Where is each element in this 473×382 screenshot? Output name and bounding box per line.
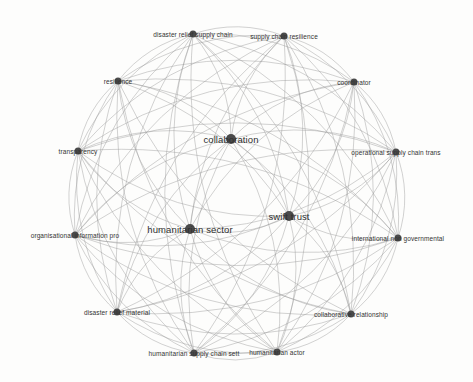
network-edge xyxy=(190,229,277,352)
network-edge xyxy=(75,235,277,352)
network-edge xyxy=(118,35,284,81)
node-label-res: resilience xyxy=(104,78,132,85)
node-label-trans: transparency xyxy=(59,148,98,155)
network-edge xyxy=(75,235,194,353)
network-edge xyxy=(284,36,354,82)
node-label-hsector: humanitarian sector xyxy=(147,224,232,235)
network-edge xyxy=(277,216,296,352)
node-label-hactor: humanitarian actor xyxy=(249,349,305,356)
network-edge xyxy=(118,81,231,139)
node-label-orginfo: organisational information pro xyxy=(31,232,120,239)
node-label-drm: disaster relief material xyxy=(84,309,150,316)
node-label-collab: collaboration xyxy=(203,134,258,145)
network-edge xyxy=(231,139,289,216)
network-edge xyxy=(118,81,289,216)
network-edge xyxy=(75,139,231,235)
network-edge xyxy=(231,139,351,314)
node-label-hscs: humanitarian supply chain sett xyxy=(149,350,240,357)
node-label-opsc: operational supply chain trans xyxy=(351,149,440,156)
node-label-scr: supply chain resilience xyxy=(250,33,318,40)
network-edge xyxy=(277,36,309,352)
node-label-ingo: international non governmental xyxy=(352,235,444,242)
network-edge xyxy=(75,150,396,235)
node-label-crel: collaborative relationship xyxy=(314,311,388,318)
network-diagram xyxy=(0,0,473,382)
network-edge xyxy=(118,81,398,238)
network-edge xyxy=(78,149,398,238)
node-label-drsc: disaster relief supply chain xyxy=(153,31,232,38)
network-edge xyxy=(194,36,285,353)
node-label-swift: swift trust xyxy=(268,211,309,222)
network-edge xyxy=(78,81,118,151)
network-edge xyxy=(118,34,193,81)
network-edge xyxy=(117,229,190,312)
node-label-coord: coordinator xyxy=(337,79,371,86)
